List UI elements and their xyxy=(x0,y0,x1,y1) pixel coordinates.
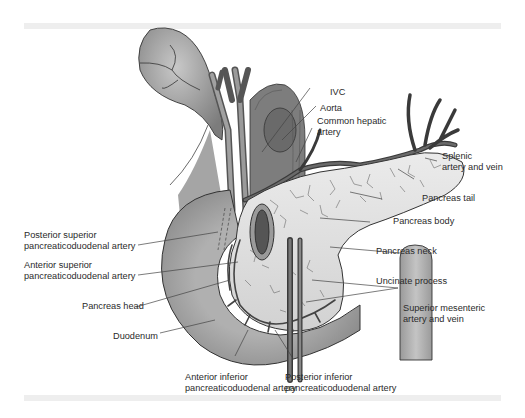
gallbladder xyxy=(139,28,223,140)
duodenal-stump-lumen xyxy=(255,210,269,254)
label-common-hepatic-artery-line1: Common hepatic xyxy=(317,116,386,128)
label-ivc: IVC xyxy=(330,87,345,99)
label-aip-line2: pancreaticoduodenal artery xyxy=(185,383,296,395)
label-aorta: Aorta xyxy=(320,103,342,115)
label-pancreas-body: Pancreas body xyxy=(393,216,454,228)
label-aip-line1: Anterior inferior xyxy=(185,372,248,384)
label-common-hepatic-artery-line2: artery xyxy=(317,127,341,139)
label-uncinate-process: Uncinate process xyxy=(376,276,447,288)
label-asp-line2: pancreaticoduodenal artery xyxy=(24,271,135,283)
label-pancreas-neck: Pancreas neck xyxy=(376,246,437,258)
label-pancreas-tail: Pancreas tail xyxy=(422,193,475,205)
label-asp-line1: Anterior superior xyxy=(24,260,92,272)
label-psp-line1: Posterior superior xyxy=(24,230,97,242)
label-sma-line1: Superior mesenteric xyxy=(403,303,485,315)
label-pip-line1: Posterior inferior xyxy=(285,372,352,384)
label-psp-line2: pancreaticoduodenal artery xyxy=(24,241,135,253)
pancreas-illustration xyxy=(0,0,525,418)
label-splenic-line1: Splenic xyxy=(442,151,472,163)
label-sma-line2: artery and vein xyxy=(403,314,464,326)
aorta-cross-section xyxy=(264,108,296,152)
label-pip-line2: pancreaticoduodenal artery xyxy=(285,383,396,395)
label-splenic-line2: artery and vein xyxy=(442,162,503,174)
label-duodenum: Duodenum xyxy=(113,331,158,343)
label-pancreas-head: Pancreas head xyxy=(82,301,144,313)
